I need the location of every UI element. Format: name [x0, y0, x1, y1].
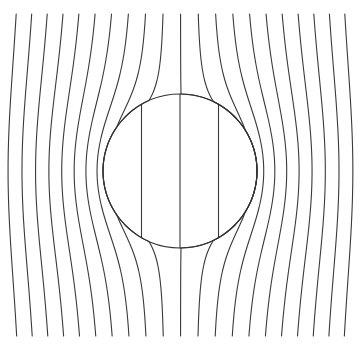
- field-line-diagram: [0, 0, 359, 350]
- figure-root: [0, 0, 359, 350]
